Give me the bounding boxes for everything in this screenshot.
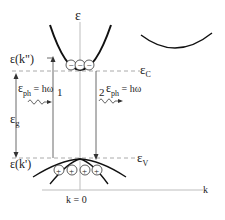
k-zero-label: k = 0: [66, 194, 87, 205]
photon-1-wave-icon: [28, 100, 44, 104]
arrow-head-icon: [47, 100, 52, 104]
photon-2-energy-label: εph = hω: [106, 81, 142, 98]
svg-text:+: +: [94, 166, 99, 176]
svg-text:+: +: [56, 166, 61, 176]
k-axis-label: k: [203, 184, 208, 195]
ec-label: εC: [140, 62, 151, 79]
band-diagram: ε k k = 0 εC εV − − − + + + + 1: [0, 0, 225, 220]
energy-axis-label: ε: [75, 8, 81, 23]
svg-text:+: +: [82, 166, 87, 176]
svg-text:−: −: [78, 60, 83, 70]
ek2-label: ε(k"): [10, 52, 34, 66]
photon-2-wave-icon: [99, 99, 115, 103]
svg-text:−: −: [69, 60, 74, 70]
arrow-head-icon: [118, 99, 123, 103]
photon-1-energy-label: εph = hω: [18, 81, 54, 98]
transition-2-number: 2: [99, 86, 105, 98]
ev-label: εV: [137, 150, 148, 168]
transition-1-number: 1: [57, 86, 63, 98]
arrow-head-icon: [51, 56, 56, 62]
arrow-head-icon: [14, 73, 19, 79]
electrons: − − −: [66, 60, 94, 70]
svg-text:+: +: [69, 166, 74, 176]
conduction-band-indirect-valley: [141, 33, 212, 48]
ek1-label: ε(k'): [10, 157, 31, 171]
band-gap-label: εg: [10, 111, 19, 128]
holes: + + + +: [54, 165, 102, 176]
svg-text:−: −: [87, 60, 92, 70]
arrow-head-icon: [94, 154, 99, 160]
